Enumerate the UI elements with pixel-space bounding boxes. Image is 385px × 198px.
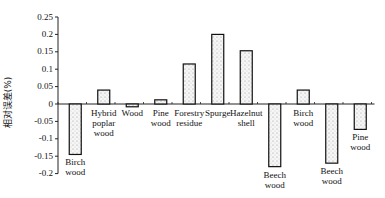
y-tick-label: 0.2 (13, 30, 53, 39)
x-category-label: Beech wood (250, 170, 300, 190)
x-category-label: Birch wood (50, 157, 100, 177)
y-tick-label: 0 (13, 100, 53, 109)
bar (98, 90, 110, 104)
y-tick-label: 0.25 (13, 13, 53, 22)
bar (155, 100, 167, 104)
y-axis-label: 相对误差(%) (1, 77, 14, 129)
y-tick-label: 0.15 (13, 47, 53, 56)
y-tick-label: -0.1 (13, 134, 53, 143)
bar-chart: 0.250.20.150.10.050-0.05-0.1-0.15-0.2 Bi… (0, 0, 385, 198)
bar (126, 104, 138, 107)
y-tick-label: -0.2 (13, 169, 53, 178)
y-tick-label: -0.15 (13, 152, 53, 161)
x-category-label: Hazelnut shell (221, 108, 271, 128)
x-category-label: Beech wood (307, 166, 357, 186)
bar (297, 90, 309, 104)
x-category-label: Pine wood (335, 132, 385, 152)
y-tick-label: 0.05 (13, 82, 53, 91)
bar (354, 104, 366, 129)
y-tick-label: 0.1 (13, 65, 53, 74)
y-tick-label: -0.05 (13, 117, 53, 126)
bar (212, 34, 224, 104)
x-category-label: Birch wood (278, 108, 328, 128)
bar (183, 64, 195, 104)
bar (240, 51, 252, 104)
